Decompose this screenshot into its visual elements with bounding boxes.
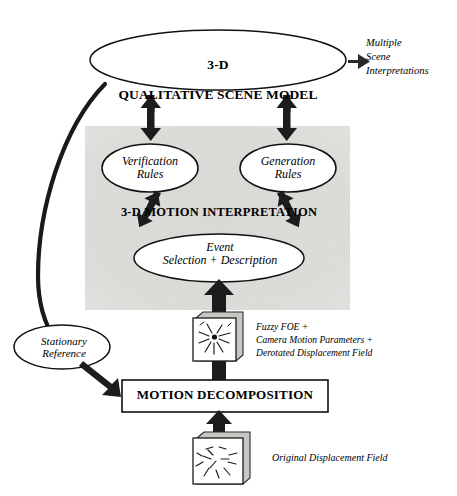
arrow-up-icon bbox=[212, 361, 226, 381]
node-scene-model[interactable] bbox=[90, 30, 346, 90]
image-stack-foe-icon bbox=[193, 312, 243, 361]
image-stack-displacement-icon bbox=[193, 432, 250, 484]
arrow-right-icon bbox=[348, 54, 370, 69]
node-stationary-reference[interactable] bbox=[14, 325, 110, 369]
node-generation-rules[interactable] bbox=[240, 144, 336, 192]
node-motion-decomposition[interactable] bbox=[122, 380, 328, 412]
diagram-canvas: 3-D QUALITATIVE SCENE MODEL Multiple Sce… bbox=[0, 0, 457, 496]
node-verification-rules[interactable] bbox=[102, 144, 198, 192]
node-event-selection-description[interactable] bbox=[134, 234, 304, 282]
diagram-vector-layer bbox=[0, 0, 457, 496]
arrow-down-right-icon bbox=[79, 361, 121, 397]
